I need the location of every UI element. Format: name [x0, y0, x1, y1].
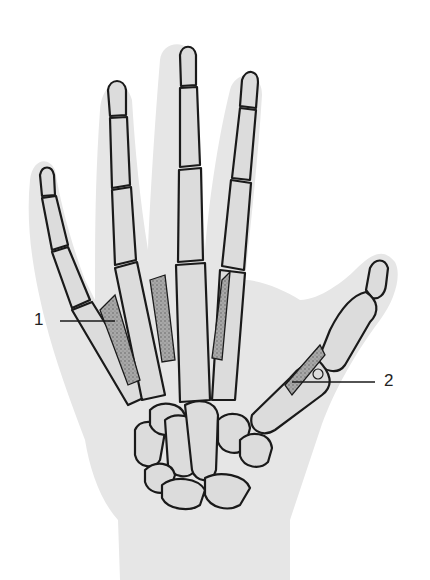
third-metacarpal — [176, 263, 210, 402]
label-2: 2 — [384, 371, 393, 391]
middle-finger-bones — [176, 47, 210, 402]
hand-skeleton-diagram — [0, 0, 430, 580]
label-1: 1 — [34, 310, 43, 330]
